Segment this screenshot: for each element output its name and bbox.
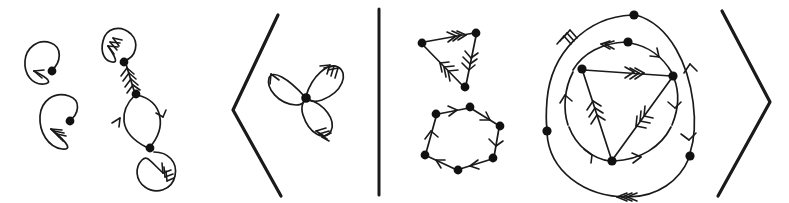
graph-node xyxy=(132,90,141,99)
graph-loop-b xyxy=(40,95,78,149)
graph-edge-h5-h6 xyxy=(427,156,457,170)
arrowhead-barb-group xyxy=(601,41,614,49)
graph-node-outer xyxy=(542,126,551,135)
arrowhead-barb-group xyxy=(108,38,122,54)
petal-edge-left xyxy=(269,74,305,105)
graph-node xyxy=(66,117,75,126)
inner-triangle-edge-t2-t3 xyxy=(613,79,671,159)
outer-ring-arc-o2-o1 xyxy=(636,15,694,153)
arrowhead-barb-group xyxy=(112,118,120,127)
arrowhead-barb-group xyxy=(557,30,577,44)
right-angle-bracket xyxy=(718,11,770,196)
graph-node xyxy=(496,122,505,131)
graph-loop-a xyxy=(25,42,59,84)
graph-node-outer xyxy=(629,10,638,19)
graph-node xyxy=(421,151,430,160)
graph-node xyxy=(418,39,427,48)
arrowhead-barb-group xyxy=(51,129,66,141)
graph-node-inner xyxy=(607,156,616,165)
inner-ring-arc-i3-left xyxy=(569,127,610,161)
graph-edge-h3-h4 xyxy=(494,128,499,157)
arrowhead-barb-group xyxy=(121,68,140,93)
graph-edge-t3-t1 xyxy=(423,45,464,87)
graph-node xyxy=(466,103,475,112)
graph-edge-bigon-left xyxy=(124,95,146,147)
inner-ring-arc-i2-right xyxy=(672,78,678,125)
graph-hexagon xyxy=(421,103,505,175)
graph-node-inner xyxy=(577,64,586,73)
diagram-svg xyxy=(0,0,789,203)
graph-node xyxy=(146,144,155,153)
graph-double-ring xyxy=(542,10,697,201)
graph-edge-bigon-right xyxy=(137,95,160,147)
graph-triangle xyxy=(418,29,481,92)
graph-node xyxy=(120,58,129,67)
arrowhead-barb-group xyxy=(320,65,338,78)
graph-node xyxy=(489,154,498,163)
graph-node xyxy=(472,29,481,38)
graph-node xyxy=(432,110,441,119)
inner-triangle-edge-t1-t2 xyxy=(584,70,671,76)
graph-node-center xyxy=(301,93,311,103)
graph-node-inner xyxy=(623,37,632,46)
graph-edge-h2-h3 xyxy=(472,109,498,125)
graph-trefoil-rose xyxy=(269,65,344,141)
arrowhead-barb-group xyxy=(668,102,681,108)
graph-node-inner xyxy=(668,71,677,80)
graph-chain xyxy=(102,28,175,190)
arrowhead-barb-group xyxy=(584,149,592,163)
graph-node-outer xyxy=(685,151,694,160)
graph-node xyxy=(454,166,463,175)
left-angle-bracket xyxy=(233,15,281,196)
outer-ring-arc-o3-o2 xyxy=(547,133,689,197)
arrowhead-barb-group xyxy=(162,163,174,181)
inner-ring-arc-i3-right xyxy=(614,127,671,161)
graph-node xyxy=(461,83,470,92)
graph-node xyxy=(48,67,57,76)
diagram-canvas xyxy=(0,0,789,203)
self-loop-edge-bottom xyxy=(137,152,175,191)
